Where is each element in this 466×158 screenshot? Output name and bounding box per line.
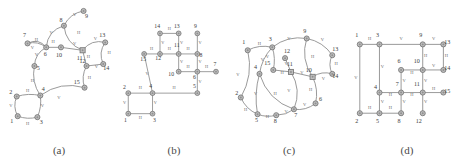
graph-canvas-c: HVHVVVHHVVHHVHVVVVHV12345678910111213141…	[230, 0, 348, 134]
edge-label-d-1-3: H	[368, 36, 372, 41]
edge-label-b-1-2: V	[123, 100, 127, 105]
node-center-dot-d-12	[422, 112, 424, 114]
node-center-dot-d-8	[400, 112, 402, 114]
edge-label-c-1-3: H	[258, 41, 262, 46]
node-label-d-3: 3	[376, 33, 379, 39]
edge-1-3	[248, 46, 273, 50]
edge-label-b-12-14: V	[161, 40, 165, 45]
edge-label-c-13-14: H	[335, 61, 339, 66]
node-center-dot-c-3	[271, 46, 273, 48]
node-label-b-13: 13	[174, 23, 180, 29]
node-label-b-8: 8	[200, 52, 203, 58]
edge-label-b-11-12: H	[168, 46, 171, 51]
node-center-dot-c-10	[312, 76, 314, 78]
node-label-c-7: 7	[294, 112, 297, 118]
edge-label-d-6-10: H	[410, 70, 414, 75]
node-center-dot-a-5	[33, 65, 35, 67]
graph-c: HVHVVVHHVVHHVHVVVVHV12345678910111213141…	[230, 0, 348, 134]
edge-label-c-7-6: V	[303, 102, 307, 107]
node-label-d-12: 12	[416, 118, 422, 124]
node-label-a-9: 9	[85, 13, 88, 19]
node-center-dot-b-15	[143, 53, 145, 55]
node-center-dot-a-7	[27, 42, 29, 44]
edge-label-a-15-4: V	[57, 95, 61, 100]
edge-label-b-4-5: H	[172, 85, 175, 90]
node-label-c-1: 1	[242, 39, 245, 45]
node-label-c-13: 13	[332, 46, 338, 52]
edge-label-d-4-7: H	[389, 93, 393, 98]
edge-2-4	[17, 94, 41, 96]
node-center-dot-c-7	[293, 108, 295, 110]
edge-layer-d: HVHVVVHHVHVHHVVVVHH	[354, 36, 448, 113]
node-label-c-12: 12	[284, 48, 290, 54]
edge-label-d-6-7: V	[402, 78, 406, 83]
node-label-d-9: 9	[419, 33, 422, 39]
node-label-d-14: 14	[444, 65, 450, 71]
node-center-dot-c-11	[290, 71, 292, 73]
node-center-dot-d-6	[400, 69, 402, 71]
edge-label-b-6-7: H	[205, 64, 208, 69]
edge-label-a-2-4: H	[26, 88, 30, 93]
node-label-c-8: 8	[274, 118, 277, 124]
node-center-dot-a-4	[39, 95, 41, 97]
edge-label-c-15-3: V	[266, 54, 270, 59]
node-label-d-8: 8	[398, 118, 401, 124]
node-center-dot-d-10	[422, 69, 424, 71]
node-label-d-7: 7	[396, 81, 399, 87]
node-center-dot-b-10	[178, 71, 180, 73]
subfigure-b: VHHVHVHVHVHVHVVHHV123456789101112131415(…	[118, 0, 230, 158]
node-center-dot-b-13	[178, 32, 180, 34]
edge-label-a-11-13: V	[94, 36, 98, 41]
edge-13-14	[101, 42, 105, 64]
node-label-a-8: 8	[59, 17, 62, 23]
node-center-dot-b-11	[178, 53, 180, 55]
node-label-a-2: 2	[9, 89, 12, 95]
node-label-b-5: 5	[193, 83, 196, 89]
node-label-c-14: 14	[332, 73, 338, 79]
edge-label-b-12-15: H	[150, 46, 153, 51]
edge-label-d-9-13: V	[432, 36, 436, 41]
node-label-b-14: 14	[154, 23, 160, 29]
edge-label-a-3-4: V	[41, 103, 45, 108]
graph-canvas-b: VHHVHVHVHVHVHVVHHV123456789101112131415	[118, 0, 230, 134]
edge-label-c-14-10: V	[322, 76, 326, 81]
edge-label-b-5-6: V	[199, 79, 203, 84]
edge-label-b-2-4: H	[139, 85, 142, 90]
subfigure-caption-c: (c)	[230, 144, 348, 156]
edge-layer-a: VHHVHVVHVVHHVVHVHHV	[9, 11, 111, 126]
node-center-dot-b-14	[159, 32, 161, 34]
edge-label-c-6-10: H	[309, 87, 313, 92]
node-label-a-6: 6	[44, 51, 47, 57]
edge-label-a-13-14: H	[108, 50, 112, 55]
edge-label-a-10-11: V	[73, 41, 77, 46]
node-center-dot-d-1	[359, 43, 361, 45]
edge-label-c-11-7: V	[287, 88, 291, 93]
node-center-dot-c-12	[284, 57, 286, 59]
edge-label-b-3-4: V	[154, 100, 158, 105]
node-center-dot-a-6	[45, 46, 47, 48]
edge-label-d-3-4: V	[381, 64, 385, 69]
node-center-dot-d-11	[422, 92, 424, 94]
node-label-b-15: 15	[140, 56, 146, 62]
node-center-dot-d-3	[378, 43, 380, 45]
node-center-dot-b-8	[196, 53, 198, 55]
edge-12-15	[83, 66, 86, 88]
node-center-dot-d-9	[422, 43, 424, 45]
node-center-dot-d-2	[359, 112, 361, 114]
node-center-dot-b-4	[152, 92, 154, 94]
edge-label-c-1-2: V	[236, 72, 240, 77]
node-label-d-10: 10	[414, 58, 420, 64]
edge-15-3	[272, 47, 274, 70]
edge-label-c-9-10: H	[311, 54, 315, 59]
graph-d: HVHVVVHHVHVHHVVVVHH123456789101112131415	[348, 0, 466, 134]
node-center-dot-c-2	[240, 97, 242, 99]
edge-label-d-4-5: V	[381, 99, 385, 104]
node-center-dot-a-11	[82, 49, 84, 51]
edge-label-c-8-7: V	[284, 109, 288, 114]
edge-label-d-10-14: V	[432, 63, 436, 68]
node-label-a-15: 15	[74, 79, 80, 85]
node-label-b-6: 6	[193, 74, 196, 80]
node-label-b-10: 10	[168, 71, 174, 77]
node-center-dot-a-12	[86, 65, 88, 67]
node-label-d-6: 6	[398, 58, 401, 64]
